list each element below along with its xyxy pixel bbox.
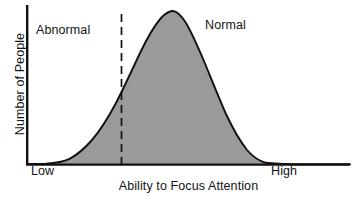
y-axis-title: Number of People (13, 9, 27, 159)
x-tick-label-low: Low (31, 164, 54, 178)
annotation-abnormal: Abnormal (36, 23, 90, 37)
annotation-normal: Normal (205, 18, 246, 32)
x-axis-title: Ability to Focus Attention (0, 179, 359, 193)
distribution-chart-figure: Abnormal Normal Low High Ability to Focu… (0, 0, 359, 200)
x-tick-label-high: High (271, 164, 297, 178)
